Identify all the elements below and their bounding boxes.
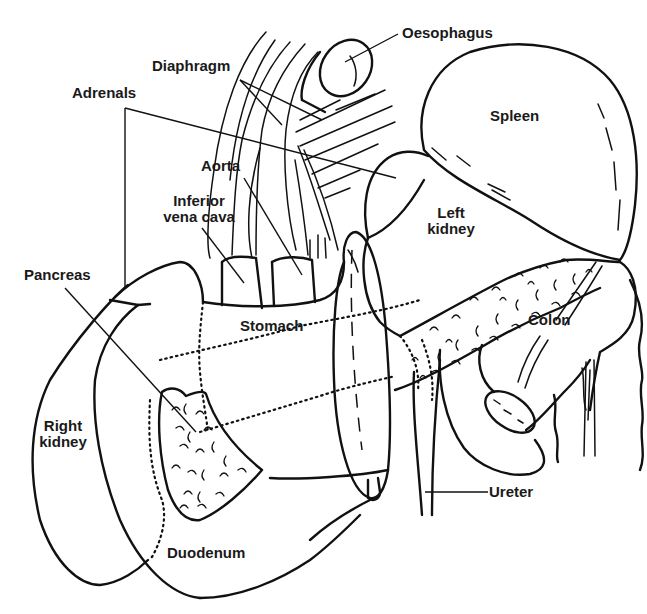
anatomy-diagram: Oesophagus Diaphragm Adrenals Spleen Aor… [0, 0, 647, 614]
label-oesophagus: Oesophagus [402, 25, 493, 41]
label-right-kidney-line2: kidney [34, 434, 92, 450]
label-ureter: Ureter [489, 484, 533, 500]
label-inferior-vena-cava: Inferior vena cava [154, 193, 244, 225]
colon-drawing [440, 262, 643, 475]
oesophagus-drawing [302, 30, 383, 112]
label-spleen: Spleen [490, 108, 539, 124]
ureter-drawing [414, 360, 488, 515]
label-inferior-vena-cava-line1: Inferior [154, 193, 244, 209]
label-colon: Colon [528, 312, 571, 328]
pancreas-head-drawing [149, 389, 262, 560]
label-pancreas: Pancreas [24, 267, 91, 283]
left-kidney-drawing [364, 152, 428, 336]
label-left-kidney-line1: Left [421, 205, 481, 221]
label-diaphragm: Diaphragm [152, 58, 230, 74]
label-left-kidney-line2: kidney [421, 221, 481, 237]
label-right-kidney-line1: Right [34, 418, 92, 434]
label-left-kidney: Left kidney [421, 205, 481, 237]
label-adrenals: Adrenals [72, 85, 136, 101]
label-aorta: Aorta [201, 158, 240, 174]
label-inferior-vena-cava-line2: vena cava [154, 209, 244, 225]
label-duodenum: Duodenum [167, 545, 245, 561]
great-vessels-drawing [222, 257, 315, 308]
label-stomach: Stomach [240, 318, 303, 334]
label-right-kidney: Right kidney [34, 418, 92, 450]
